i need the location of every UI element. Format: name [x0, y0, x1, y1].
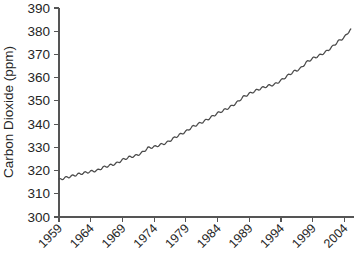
y-tick-label: 380	[27, 24, 50, 39]
x-tick-label: 1984	[194, 221, 224, 251]
x-tick-label: 1979	[162, 221, 192, 251]
x-axis-tick-labels: 1959196419691974197919841989199419992004	[36, 221, 351, 251]
y-tick-label: 370	[27, 47, 50, 62]
x-tick-label: 1959	[36, 221, 66, 251]
x-tick-label: 1974	[131, 221, 161, 251]
y-tick-label: 310	[27, 186, 50, 201]
x-tick-label: 1989	[226, 221, 256, 251]
co2-chart-figure: 300310320330340350360370380390 195919641…	[0, 0, 354, 256]
y-tick-label: 300	[27, 210, 50, 225]
x-tick-label: 1964	[67, 221, 97, 251]
x-tick-label: 1999	[289, 221, 319, 251]
y-axis-title: Carbon Dioxide (ppm)	[1, 46, 16, 178]
x-axis-ticks	[59, 217, 344, 222]
y-tick-label: 320	[27, 163, 50, 178]
x-tick-label: 2004	[321, 221, 351, 251]
chart-canvas: 300310320330340350360370380390 195919641…	[0, 0, 354, 256]
y-tick-label: 350	[27, 93, 50, 108]
y-axis-tick-labels: 300310320330340350360370380390	[27, 1, 50, 225]
y-axis-ticks	[54, 8, 59, 217]
y-tick-label: 360	[27, 70, 50, 85]
x-tick-label: 1994	[258, 221, 288, 251]
co2-data-line	[59, 29, 351, 180]
y-tick-label: 390	[27, 1, 50, 16]
y-tick-label: 340	[27, 117, 50, 132]
x-tick-label: 1969	[99, 221, 129, 251]
y-tick-label: 330	[27, 140, 50, 155]
